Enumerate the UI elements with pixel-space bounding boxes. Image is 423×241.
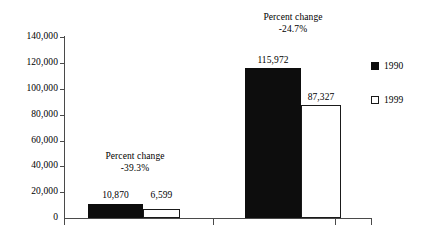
y-tick-label-20000: 20,000 xyxy=(2,187,58,197)
legend: 1990 1999 xyxy=(371,60,423,128)
x-axis-line xyxy=(64,218,372,219)
y-tick-label-60000: 60,000 xyxy=(2,136,58,146)
legend-item-1999[interactable]: 1999 xyxy=(371,94,423,106)
y-tick-mark-80000 xyxy=(60,115,64,116)
x-tick-mark-middle xyxy=(213,219,214,225)
filled-square-icon xyxy=(371,62,379,70)
y-tick-label-0: 0 xyxy=(2,213,58,223)
bar-value-group2-1990: 115,972 xyxy=(245,55,301,65)
bar-group2-1990 xyxy=(245,68,301,218)
x-tick-mark-left xyxy=(64,219,65,225)
y-tick-mark-20000 xyxy=(60,192,64,193)
x-tick-mark-end xyxy=(371,219,372,225)
percent-change-label-group1: Percent change xyxy=(105,151,164,161)
y-tick-mark-60000 xyxy=(60,141,64,142)
legend-label-1999: 1999 xyxy=(384,95,403,105)
hollow-square-icon xyxy=(371,96,379,104)
y-tick-label-120000: 120,000 xyxy=(2,58,58,68)
legend-label-1990: 1990 xyxy=(384,61,403,71)
y-tick-label-100000: 100,000 xyxy=(2,84,58,94)
y-tick-mark-120000 xyxy=(60,63,64,64)
y-tick-label-40000: 40,000 xyxy=(2,161,58,171)
bar-group2-1999 xyxy=(301,105,341,218)
bar-group1-1999 xyxy=(143,209,180,218)
x-tick-mark-right xyxy=(335,219,336,225)
bar-value-group1-1990: 10,870 xyxy=(88,190,143,200)
percent-change-value-group1: -39.3% xyxy=(89,163,181,175)
percent-change-annotation-group1: Percent change -39.3% xyxy=(89,151,181,174)
y-tick-mark-40000 xyxy=(60,166,64,167)
bar-group1-1990 xyxy=(88,204,143,218)
y-tick-mark-100000 xyxy=(60,89,64,90)
bar-value-group1-1999: 6,599 xyxy=(143,190,180,200)
y-tick-mark-140000 xyxy=(60,37,64,38)
legend-item-1990[interactable]: 1990 xyxy=(371,60,423,72)
y-axis-line xyxy=(64,36,65,219)
bar-value-group2-1999: 87,327 xyxy=(299,92,343,102)
percent-change-label-group2: Percent change xyxy=(263,12,322,22)
y-tick-label-140000: 140,000 xyxy=(2,32,58,42)
title-remnant xyxy=(250,0,350,4)
percent-change-annotation-group2: Percent change -24.7% xyxy=(247,12,339,35)
percent-change-value-group2: -24.7% xyxy=(247,24,339,36)
bar-chart: 140,000 120,000 100,000 80,000 60,000 40… xyxy=(0,0,423,241)
y-tick-label-80000: 80,000 xyxy=(2,110,58,120)
